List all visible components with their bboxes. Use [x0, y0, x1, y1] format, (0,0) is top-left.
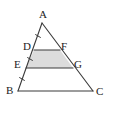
vertex-label-E: E	[14, 59, 21, 70]
shaded-trapezoid-DFGE	[26, 50, 73, 68]
vertex-label-B: B	[6, 85, 13, 96]
vertex-label-G: G	[74, 59, 82, 70]
vertex-label-D: D	[23, 41, 31, 52]
vertex-label-C: C	[96, 86, 103, 97]
vertex-label-F: F	[61, 41, 67, 52]
vertex-label-A: A	[39, 9, 47, 20]
geometry-figure: A D F E G B C	[0, 0, 115, 115]
